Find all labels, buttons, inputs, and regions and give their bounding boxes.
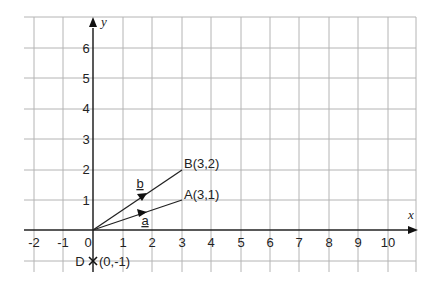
point-d: D (0,-1) [75,254,130,269]
point-b-label: B(3,2) [184,156,219,171]
svg-text:3: 3 [82,132,89,147]
y-axis-arrow-icon [89,17,97,27]
y-tick-labels: 1 2 3 4 5 6 [82,41,89,208]
svg-text:3: 3 [178,235,185,250]
svg-text:10: 10 [381,235,395,250]
vector-a-label: a [141,213,149,228]
svg-text:5: 5 [237,235,244,250]
vector-a: a A(3,1) [93,187,219,230]
svg-text:4: 4 [82,101,89,116]
svg-text:9: 9 [354,235,361,250]
svg-text:4: 4 [207,235,214,250]
x-axis: x [24,207,418,234]
svg-text:2: 2 [148,235,155,250]
svg-text:6: 6 [82,41,89,56]
svg-text:1: 1 [119,235,126,250]
y-axis: y [89,14,107,272]
svg-text:1: 1 [82,193,89,208]
svg-text:2: 2 [82,162,89,177]
vector-b-label: b [136,176,143,191]
svg-text:6: 6 [266,235,273,250]
svg-text:5: 5 [82,71,89,86]
point-d-name: D [75,254,84,269]
x-tick-labels: -2 -1 0 1 2 3 4 5 6 7 8 9 10 [28,235,395,250]
point-d-coords: (0,-1) [99,254,130,269]
coordinate-diagram: x y -2 -1 0 1 2 3 4 5 6 7 8 9 10 1 2 3 [0,0,440,283]
svg-text:0: 0 [84,235,91,250]
svg-text:8: 8 [325,235,332,250]
svg-text:7: 7 [295,235,302,250]
x-axis-label: x [407,207,414,222]
y-axis-label: y [99,14,107,29]
point-a-label: A(3,1) [184,187,219,202]
svg-text:-2: -2 [28,235,40,250]
svg-text:-1: -1 [57,235,69,250]
